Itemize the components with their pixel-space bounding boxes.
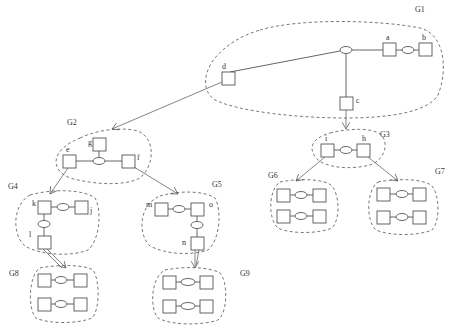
node-label-a: a (386, 33, 390, 42)
arrow-g3-g7 (368, 157, 398, 181)
entity-box (163, 276, 176, 289)
relationship-ellipse (38, 221, 50, 228)
group-g1: G1 a b d c (206, 5, 444, 118)
node-label-i: i (325, 134, 328, 143)
group-label: G7 (435, 167, 445, 176)
group-g5: G5 m o n (142, 180, 222, 253)
group-g6-boundary (271, 180, 338, 233)
group-label: G8 (9, 269, 19, 278)
entity-box (74, 274, 87, 287)
entity-box (377, 188, 390, 201)
entity-box (200, 300, 213, 313)
node-label-h: h (362, 134, 366, 143)
relationship-ellipse (181, 303, 195, 310)
entity-box (413, 188, 426, 201)
group-g5-boundary (142, 192, 219, 253)
arrow-g4-g8-double (43, 249, 62, 268)
node-j (75, 201, 88, 214)
group-g8: G8 (9, 266, 98, 323)
relationship-ellipse (396, 214, 408, 221)
node-label-e: e (66, 145, 70, 154)
entity-box (377, 211, 390, 224)
group-g2: G2 g e f (56, 118, 151, 184)
arrow-g2-g5 (134, 167, 178, 194)
node-label-n: n (182, 238, 186, 247)
entity-box (413, 211, 426, 224)
group-g6: G6 (268, 171, 338, 233)
relationship-ellipse (340, 47, 352, 54)
node-label-b: b (422, 33, 426, 42)
node-m (155, 203, 168, 216)
group-g3: G3 i h (312, 129, 390, 167)
entity-box (38, 298, 51, 311)
group-label: G3 (380, 130, 390, 139)
node-f (122, 155, 135, 168)
relationship-ellipse (340, 147, 352, 154)
arrow-g1-g2 (112, 82, 222, 129)
relationship-ellipse (55, 301, 67, 308)
entity-box (277, 189, 290, 202)
node-a (383, 43, 396, 56)
group-label: G1 (415, 5, 425, 14)
node-label-g: g (88, 138, 92, 147)
node-label-d: d (222, 62, 226, 71)
node-l (38, 236, 51, 249)
relationship-ellipse (55, 277, 67, 284)
node-i (321, 144, 334, 157)
node-e (63, 155, 76, 168)
node-h (357, 144, 370, 157)
group-label: G9 (240, 269, 250, 278)
relationship-ellipse (93, 158, 105, 165)
node-d (222, 72, 235, 85)
node-label-k: k (32, 199, 36, 208)
entity-box (200, 276, 213, 289)
entity-box (313, 189, 326, 202)
entity-box (277, 210, 290, 223)
relationship-ellipse (173, 206, 185, 213)
node-label-l: l (29, 230, 32, 239)
node-label-m: m (146, 200, 153, 209)
group-label: G5 (212, 180, 222, 189)
relationship-ellipse (402, 47, 414, 54)
relationship-ellipse (181, 279, 195, 286)
relationship-ellipse (295, 213, 307, 220)
node-g (93, 138, 106, 151)
group-g7: G7 (369, 167, 445, 235)
entity-box (313, 210, 326, 223)
group-label: G6 (268, 171, 278, 180)
arrow-g2-g4 (50, 168, 68, 194)
relationship-ellipse (57, 204, 69, 211)
entity-box (74, 298, 87, 311)
group-g4-boundary (16, 191, 99, 254)
node-label-o: o (209, 200, 213, 209)
arrow-g4-g8 (47, 249, 66, 268)
entity-box (38, 274, 51, 287)
graph-decomposition-diagram: G1 a b d c G2 g e f (0, 0, 452, 335)
node-o (191, 203, 204, 216)
node-b (419, 43, 432, 56)
arrow-g3-g6 (296, 157, 325, 181)
relationship-ellipse (396, 191, 408, 198)
node-n (191, 237, 204, 250)
node-c (340, 97, 353, 110)
entity-box (163, 300, 176, 313)
node-k (38, 201, 51, 214)
relationship-ellipse (191, 222, 203, 229)
node-label-f: f (137, 153, 140, 162)
group-g4: G4 k j l (8, 182, 99, 254)
group-label: G2 (67, 118, 77, 127)
group-label: G4 (8, 182, 18, 191)
group-g9: G9 (153, 268, 250, 324)
relationship-ellipse (295, 192, 307, 199)
node-label-j: j (89, 206, 92, 215)
node-label-c: c (356, 96, 360, 105)
